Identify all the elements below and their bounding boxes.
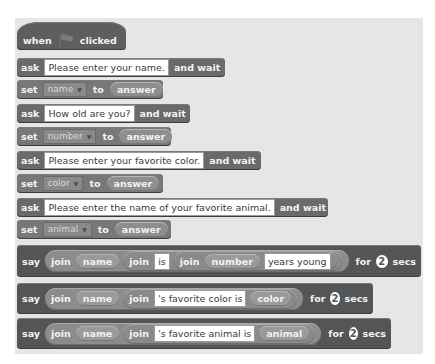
join-label: join: [51, 293, 71, 304]
ask-color-block[interactable]: ask Please enter your favorite color. an…: [17, 151, 261, 170]
set-number-block[interactable]: set number▼ to answer: [17, 127, 171, 146]
name-variable-reporter[interactable]: name: [76, 326, 120, 341]
join-label: join: [129, 328, 149, 339]
ask-animal-block[interactable]: ask Please enter the name of your favori…: [17, 198, 328, 217]
ask-age-block[interactable]: ask How old are you? and wait: [17, 104, 190, 123]
say-color-block[interactable]: say join name join 's favorite color is …: [17, 283, 373, 314]
clicked-label: clicked: [80, 35, 117, 46]
ask-text-input[interactable]: Please enter your favorite color.: [44, 152, 204, 169]
inner-join-reporter[interactable]: join 's favorite animal is animal: [123, 324, 315, 344]
ask-label: ask: [21, 62, 39, 73]
variable-name: color: [48, 177, 70, 190]
join-text-input[interactable]: is: [154, 253, 170, 270]
variable-name: name: [48, 83, 74, 96]
green-flag-icon: [58, 33, 74, 47]
say-animal-block[interactable]: say join name join 's favorite animal is…: [17, 318, 391, 349]
variable-name: number: [48, 130, 83, 143]
say-label: say: [22, 328, 40, 339]
secs-label: secs: [363, 328, 386, 339]
set-color-block[interactable]: set color▼ to answer: [17, 174, 163, 193]
variable-name: animal: [48, 223, 79, 236]
variable-dropdown[interactable]: number▼: [43, 129, 97, 144]
color-variable-reporter[interactable]: color: [250, 291, 291, 306]
answer-reporter[interactable]: answer: [107, 176, 160, 191]
number-variable-reporter[interactable]: number: [205, 254, 260, 269]
set-animal-block[interactable]: set animal▼ to answer: [17, 220, 171, 239]
ask-text-input[interactable]: How old are you?: [44, 105, 134, 122]
name-variable-reporter[interactable]: name: [76, 291, 120, 306]
ask-label: ask: [21, 108, 39, 119]
set-label: set: [21, 84, 38, 95]
secs-input[interactable]: 2: [349, 327, 358, 340]
dropdown-arrow-icon: ▼: [82, 223, 87, 236]
when-flag-clicked-block[interactable]: when clicked: [17, 22, 126, 50]
ask-text-input[interactable]: Please enter your name.: [44, 59, 169, 76]
set-label: set: [21, 224, 38, 235]
and-wait-label: and wait: [280, 202, 326, 213]
dropdown-arrow-icon: ▼: [77, 83, 82, 96]
dropdown-arrow-icon: ▼: [87, 130, 92, 143]
ask-label: ask: [21, 202, 39, 213]
for-label: for: [356, 256, 371, 267]
and-wait-label: and wait: [209, 155, 255, 166]
animal-variable-reporter[interactable]: animal: [259, 326, 309, 341]
join-text-input[interactable]: years young: [264, 253, 331, 270]
answer-reporter[interactable]: answer: [115, 222, 168, 237]
set-label: set: [21, 178, 38, 189]
to-label: to: [98, 224, 109, 235]
say-label: say: [22, 256, 40, 267]
and-wait-label: and wait: [174, 62, 220, 73]
secs-input[interactable]: 2: [376, 255, 388, 268]
secs-label: secs: [345, 293, 368, 304]
to-label: to: [89, 178, 100, 189]
ask-text-input[interactable]: Please enter the name of your favorite a…: [44, 199, 274, 216]
secs-input[interactable]: 2: [330, 292, 339, 305]
join-label: join: [51, 256, 71, 267]
join-reporter[interactable]: join name join is join number years youn…: [45, 250, 349, 272]
join-label: join: [129, 256, 149, 267]
answer-reporter[interactable]: answer: [110, 82, 163, 97]
to-label: to: [93, 84, 104, 95]
variable-dropdown[interactable]: color▼: [43, 176, 84, 191]
when-label: when: [23, 35, 52, 46]
join-text-input[interactable]: 's favorite animal is: [154, 325, 255, 342]
ask-label: ask: [21, 155, 39, 166]
and-wait-label: and wait: [140, 108, 186, 119]
name-variable-reporter[interactable]: name: [76, 254, 120, 269]
variable-dropdown[interactable]: name▼: [43, 82, 87, 97]
dropdown-arrow-icon: ▼: [74, 177, 79, 190]
say-age-block[interactable]: say join name join is join number years …: [17, 245, 421, 277]
join-label: join: [51, 328, 71, 339]
for-label: for: [328, 328, 343, 339]
set-name-block[interactable]: set name▼ to answer: [17, 80, 163, 99]
inner-join-reporter-2[interactable]: join number years young: [174, 251, 337, 271]
join-reporter[interactable]: join name join 's favorite animal is ani…: [45, 323, 321, 345]
to-label: to: [102, 131, 113, 142]
ask-name-block[interactable]: ask Please enter your name. and wait: [17, 58, 225, 77]
for-label: for: [310, 293, 325, 304]
inner-join-reporter[interactable]: join 's favorite color is color: [123, 289, 297, 309]
join-reporter[interactable]: join name join 's favorite color is colo…: [45, 288, 303, 310]
secs-label: secs: [393, 256, 416, 267]
join-text-input[interactable]: 's favorite color is: [154, 290, 246, 307]
join-label: join: [129, 293, 149, 304]
inner-join-reporter[interactable]: join is join number years young: [123, 251, 342, 271]
answer-reporter[interactable]: answer: [119, 129, 172, 144]
join-label: join: [180, 256, 200, 267]
variable-dropdown[interactable]: animal▼: [43, 222, 92, 237]
set-label: set: [21, 131, 38, 142]
say-label: say: [22, 293, 40, 304]
